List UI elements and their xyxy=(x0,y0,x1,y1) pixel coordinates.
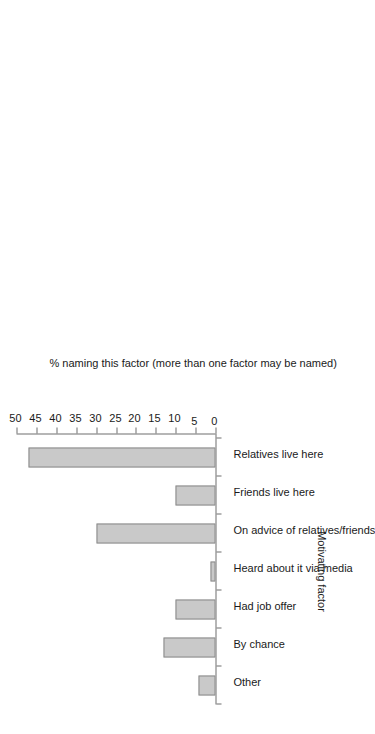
category-axis-tick xyxy=(216,513,221,514)
value-axis-tick-label: 30 xyxy=(89,412,102,424)
value-axis-tick xyxy=(135,427,136,433)
category-axis-label: By chance xyxy=(233,637,284,649)
category-axis-tick xyxy=(216,437,221,438)
category-axis-title: Motivating factor xyxy=(315,531,327,612)
category-axis-tick xyxy=(216,551,221,552)
value-axis-tick xyxy=(116,427,117,433)
value-axis-tick xyxy=(56,427,57,433)
bar xyxy=(175,599,215,619)
value-axis-tick xyxy=(155,427,156,433)
value-axis-tick-label: 25 xyxy=(109,412,122,424)
bar xyxy=(210,561,215,581)
value-axis-tick xyxy=(175,427,176,433)
bar xyxy=(163,637,215,657)
value-axis-tick-label: 35 xyxy=(69,412,82,424)
category-axis-tick xyxy=(216,627,221,628)
category-axis-tick xyxy=(216,665,221,666)
value-axis-tick-label: 40 xyxy=(49,412,62,424)
bar xyxy=(96,523,215,543)
value-axis-tick-label: 10 xyxy=(168,412,181,424)
value-axis-tick xyxy=(16,427,17,433)
category-axis-label: Had job offer xyxy=(233,599,296,611)
value-axis-tick-label: 50 xyxy=(9,412,22,424)
bar xyxy=(175,485,215,505)
value-axis-tick xyxy=(215,427,216,433)
category-axis-label: Friends live here xyxy=(233,485,314,497)
value-axis-tick-label: 45 xyxy=(29,412,42,424)
value-axis-tick-label: 5 xyxy=(191,415,197,427)
category-axis-tick xyxy=(216,703,221,704)
bar xyxy=(28,447,215,467)
value-axis-tick xyxy=(76,427,77,433)
category-axis-label: Heard about it via media xyxy=(233,561,352,573)
category-axis-tick xyxy=(216,589,221,590)
value-axis-tick xyxy=(195,427,196,433)
value-axis-tick-label: 0 xyxy=(211,415,217,427)
value-axis-line xyxy=(16,433,215,434)
value-axis-tick xyxy=(36,427,37,433)
category-axis-label: Relatives live here xyxy=(233,447,323,459)
value-axis-tick-label: 15 xyxy=(148,412,161,424)
category-axis-label: On advice of relatives/friends xyxy=(233,523,375,535)
value-axis-tick-label: 20 xyxy=(128,412,141,424)
category-axis-tick xyxy=(216,475,221,476)
bar xyxy=(198,675,215,695)
value-axis-tick xyxy=(96,427,97,433)
category-axis-label: Other xyxy=(233,675,261,687)
